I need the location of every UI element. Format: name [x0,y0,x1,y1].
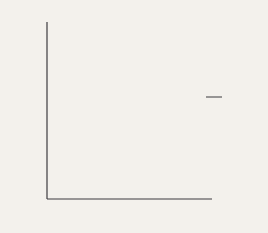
chart-plot-area [0,0,268,233]
chart-figure [0,0,268,233]
